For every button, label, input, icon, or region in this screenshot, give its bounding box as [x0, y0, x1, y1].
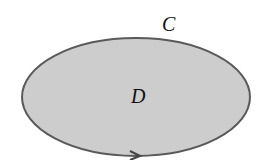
region-ellipse-svg [0, 0, 273, 160]
region-label-d: D [131, 86, 145, 106]
curve-label-c: C [162, 14, 175, 34]
diagram-canvas: C D [0, 0, 273, 160]
